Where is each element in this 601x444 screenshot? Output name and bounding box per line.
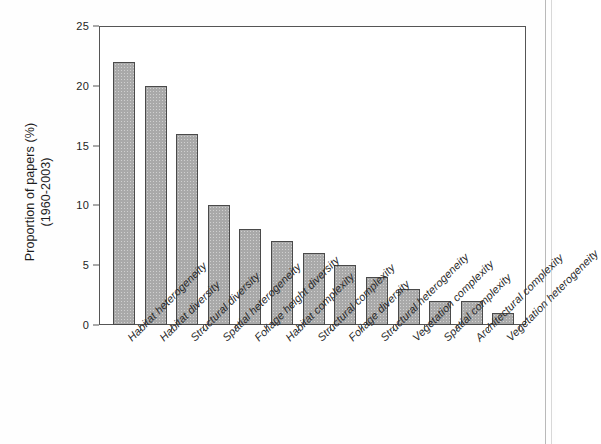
x-axis-tick-mark — [361, 325, 362, 331]
bar-series — [99, 26, 526, 325]
x-axis-tick-mark — [519, 325, 520, 331]
y-axis-tick-label: 20 — [76, 80, 89, 91]
bar — [334, 265, 356, 325]
y-axis-tick-label: 25 — [76, 21, 89, 32]
bar — [208, 205, 230, 325]
x-axis-tick-mark — [424, 325, 425, 331]
page-scan-edge-outer — [551, 0, 552, 444]
bar — [239, 229, 261, 325]
bar — [145, 86, 167, 325]
bar — [113, 62, 135, 325]
bar — [271, 241, 293, 325]
bar — [492, 313, 514, 325]
x-axis-tick-mark — [203, 325, 204, 331]
page-scan-edge — [545, 0, 546, 444]
x-axis-tick-mark — [140, 325, 141, 331]
y-axis-tick-label: 0 — [83, 320, 89, 331]
x-axis-tick-mark — [298, 325, 299, 331]
x-axis-tick-mark — [266, 325, 267, 331]
x-axis-tick-mark — [393, 325, 394, 331]
bar — [303, 253, 325, 325]
x-axis-tick-mark — [171, 325, 172, 331]
y-axis: 0510152025 — [0, 0, 99, 444]
y-axis-tick-label: 5 — [83, 260, 89, 271]
x-axis-tick-mark — [330, 325, 331, 331]
y-axis-tick-label: 15 — [76, 140, 89, 151]
x-axis-tick-mark — [488, 325, 489, 331]
x-axis-tick-mark — [235, 325, 236, 331]
x-axis-tick-mark — [456, 325, 457, 331]
y-axis-tick-label: 10 — [76, 200, 89, 211]
bar — [398, 289, 420, 325]
bar — [429, 301, 451, 325]
bar — [366, 277, 388, 325]
bar — [176, 134, 198, 325]
bar — [461, 301, 483, 325]
